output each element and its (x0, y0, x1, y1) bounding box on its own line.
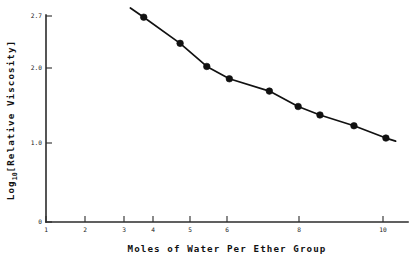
data-point (203, 63, 210, 70)
x-tick-label-4: 4 (151, 226, 155, 233)
x-tick-label-5: 5 (188, 226, 192, 233)
data-point (317, 112, 324, 119)
y-axis-title-base: Log (5, 180, 16, 200)
data-point (226, 75, 233, 82)
x-tick-label-2: 2 (83, 226, 87, 233)
data-point (351, 122, 358, 129)
data-point (140, 14, 147, 21)
data-point (266, 88, 273, 95)
chart-container: 2.7 2.0 1.0 0 1 2 3 4 5 6 8 10 (0, 0, 415, 261)
y-tick-label-2.7: 2.7 (31, 12, 42, 19)
x-tick-label-6: 6 (225, 226, 229, 233)
y-axis-ticks (46, 16, 52, 222)
x-tick-label-8: 8 (297, 226, 301, 233)
data-point (295, 103, 302, 110)
x-tick-label-1: 1 (44, 226, 48, 233)
y-axis-title-bracket: [Relative Viscosity] (5, 40, 16, 173)
y-tick-label-0: 0 (38, 218, 42, 225)
data-point (177, 40, 184, 47)
x-tick-label-10: 10 (379, 226, 387, 233)
x-tick-label-3: 3 (122, 226, 126, 233)
y-tick-label-2.0: 2.0 (31, 64, 42, 71)
svg-text:Log10[Relative Viscosity]: Log10[Relative Viscosity] (5, 40, 19, 201)
y-axis-tick-labels: 2.7 2.0 1.0 0 (31, 12, 42, 225)
y-axis-title: Log10[Relative Viscosity] (5, 40, 19, 201)
x-axis-ticks (46, 216, 383, 222)
y-axis-title-subscript: 10 (11, 172, 19, 180)
data-point (383, 135, 390, 142)
x-axis-title: Moles of Water Per Ether Group (128, 243, 327, 254)
viscosity-line-chart: 2.7 2.0 1.0 0 1 2 3 4 5 6 8 10 (0, 0, 415, 261)
data-series-markers (140, 14, 389, 141)
x-axis-tick-labels: 1 2 3 4 5 6 8 10 (44, 226, 387, 233)
data-series-line (130, 8, 395, 141)
y-tick-label-1.0: 1.0 (31, 139, 42, 146)
